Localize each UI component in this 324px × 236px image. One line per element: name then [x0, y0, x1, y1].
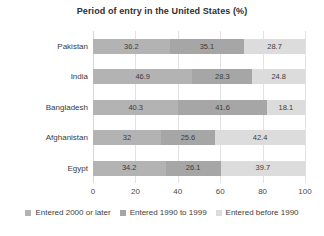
bar-segment[interactable]: 42.4 [215, 130, 305, 145]
bar-segment[interactable]: 40.3 [93, 100, 178, 115]
legend-label: Entered 1990 to 1999 [130, 208, 207, 217]
bar-value-label: 36.2 [124, 43, 139, 51]
bar-value-label: 42.4 [253, 134, 268, 142]
category-label-egypt: Egypt [68, 161, 88, 176]
tick-label-20: 20 [131, 187, 140, 196]
legend-swatch-icon [25, 210, 31, 216]
legend-label: Entered 2000 or later [35, 208, 110, 217]
bar-segment[interactable]: 26.1 [166, 161, 221, 176]
tick-label-0: 0 [91, 187, 95, 196]
tick-label-100: 100 [298, 187, 311, 196]
tick-label-60: 60 [216, 187, 225, 196]
bar-segment[interactable]: 25.6 [161, 130, 215, 145]
bar-row[interactable]: 34.226.139.7 [93, 161, 305, 176]
bar-value-label: 25.6 [181, 134, 196, 142]
legend-swatch-icon [216, 210, 222, 216]
bar-value-label: 26.1 [186, 164, 201, 172]
bar-row[interactable]: 46.928.324.8 [93, 69, 305, 84]
bar-segment[interactable]: 34.2 [93, 161, 166, 176]
bar-value-label: 18.1 [278, 104, 293, 112]
bar-value-label: 41.6 [215, 104, 230, 112]
plot-area: 36.235.128.746.928.324.840.341.618.13225… [93, 31, 305, 183]
bar-segment[interactable]: 41.6 [178, 100, 266, 115]
bar-segment[interactable]: 18.1 [267, 100, 305, 115]
stacked-bar-chart: Period of entry in the United States (%)… [0, 0, 324, 236]
bar-value-label: 24.8 [271, 73, 286, 81]
bar-value-label: 35.1 [200, 43, 215, 51]
bar-segment[interactable]: 36.2 [93, 39, 170, 54]
bar-segment[interactable]: 46.9 [93, 69, 192, 84]
bar-segment[interactable]: 32 [93, 130, 161, 145]
gridline-100 [305, 31, 306, 183]
legend-item[interactable]: Entered 2000 or later [25, 208, 110, 217]
bar-value-label: 39.7 [256, 164, 271, 172]
bar-value-label: 34.2 [122, 164, 137, 172]
bar-segment[interactable]: 28.7 [244, 39, 305, 54]
legend-label: Entered before 1990 [226, 208, 299, 217]
bar-row[interactable]: 3225.642.4 [93, 130, 305, 145]
tick-label-40: 40 [173, 187, 182, 196]
bar-row[interactable]: 36.235.128.7 [93, 39, 305, 54]
category-label-india: India [71, 69, 88, 84]
chart-title: Period of entry in the United States (%) [0, 6, 324, 16]
bar-value-label: 40.3 [128, 104, 143, 112]
legend-item[interactable]: Entered before 1990 [216, 208, 299, 217]
bar-rows: 36.235.128.746.928.324.840.341.618.13225… [93, 31, 305, 183]
chart-legend: Entered 2000 or laterEntered 1990 to 199… [0, 208, 324, 217]
category-label-bangladesh: Bangladesh [46, 100, 88, 115]
legend-item[interactable]: Entered 1990 to 1999 [120, 208, 207, 217]
bar-value-label: 28.7 [267, 43, 282, 51]
bar-value-label: 28.3 [215, 73, 230, 81]
legend-swatch-icon [120, 210, 126, 216]
category-label-afghanistan: Afghanistan [46, 130, 88, 145]
bar-row[interactable]: 40.341.618.1 [93, 100, 305, 115]
bar-segment[interactable]: 24.8 [252, 69, 305, 84]
bar-segment[interactable]: 39.7 [221, 161, 305, 176]
bar-segment[interactable]: 28.3 [192, 69, 252, 84]
bar-segment[interactable]: 35.1 [170, 39, 244, 54]
category-label-pakistan: Pakistan [57, 39, 88, 54]
tick-label-80: 80 [258, 187, 267, 196]
bar-value-label: 32 [123, 134, 131, 142]
bar-value-label: 46.9 [135, 73, 150, 81]
